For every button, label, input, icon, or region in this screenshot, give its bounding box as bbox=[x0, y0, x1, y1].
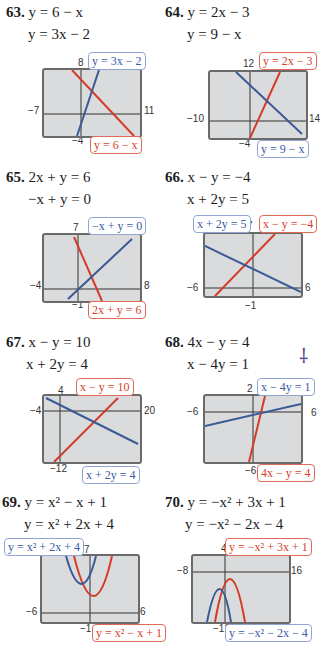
label-red-line: y = 2x − 3 bbox=[259, 52, 317, 70]
ymax-label: 12 bbox=[243, 58, 254, 69]
label-blue-line: y = 3x − 2 bbox=[88, 52, 146, 70]
label-blue-line: −x + y = 0 bbox=[88, 217, 146, 235]
xmin-label: −4 bbox=[30, 405, 41, 416]
equation-1: 4x − y = 4 bbox=[188, 334, 250, 350]
equation-1: y = −x² + 3x + 1 bbox=[188, 494, 286, 510]
xmin-label: −10 bbox=[187, 113, 204, 124]
problem-number: 67. bbox=[6, 334, 25, 350]
problem-68: 68. 4x − y = 4 x − 4y = 1 ⸸ 2 −6 6 −6 x … bbox=[163, 330, 326, 495]
label-blue-line: y = 9 − x bbox=[257, 140, 309, 158]
problem-number: 64. bbox=[165, 4, 184, 20]
xmax-label: 14 bbox=[309, 113, 320, 124]
graph-plot bbox=[44, 396, 140, 462]
graph-screen bbox=[42, 68, 142, 138]
problem-number: 69. bbox=[2, 494, 21, 510]
graph-plot bbox=[210, 72, 306, 138]
problem-65: 65. 2x + y = 6 −x + y = 0 7 −4 8 −1 −x +… bbox=[0, 165, 163, 330]
graph-plot bbox=[44, 70, 140, 136]
graph-plot bbox=[44, 235, 140, 301]
equation-1: 2x + y = 6 bbox=[29, 169, 91, 185]
graph-screen bbox=[191, 554, 291, 624]
equation-2: y = x² + 2x + 4 bbox=[24, 516, 114, 533]
ymin-label: −12 bbox=[50, 463, 67, 474]
xmin-label: −4 bbox=[30, 280, 41, 291]
label-blue-line: x + 2y = 5 bbox=[193, 215, 251, 233]
equation-2: x − 4y = 1 bbox=[187, 356, 249, 373]
hand-mark-icon: ⸸ bbox=[299, 342, 308, 369]
xmax-label: 6 bbox=[305, 282, 311, 293]
xmin-label: −8 bbox=[177, 565, 188, 576]
graph-screen bbox=[42, 394, 142, 464]
graph-plot bbox=[193, 556, 289, 622]
problem-63: 63. y = 6 − x y = 3x − 2 8 −7 11 −4 y = … bbox=[0, 0, 163, 165]
xmin-label: −7 bbox=[28, 105, 39, 116]
label-red-parabola: y = −x² + 3x + 1 bbox=[225, 538, 312, 556]
label-red-line: x − y = 10 bbox=[76, 378, 134, 396]
label-blue-line: x + 2y = 4 bbox=[82, 466, 140, 484]
label-blue-line: x − 4y = 1 bbox=[257, 378, 315, 396]
xmin-label: −6 bbox=[187, 282, 198, 293]
equation-2: y = 9 − x bbox=[187, 26, 241, 43]
problem-number: 68. bbox=[165, 334, 184, 350]
graph-plot bbox=[205, 396, 301, 462]
label-red-line: 2x + y = 6 bbox=[88, 301, 146, 319]
problem-number: 63. bbox=[6, 4, 25, 20]
equation-1: y = 6 − x bbox=[29, 4, 83, 20]
problem-66: 66. x − y = −4 x + 2y = 5 7 −6 6 −1 x + … bbox=[163, 165, 326, 330]
xmax-label: 6 bbox=[140, 606, 146, 617]
ymin-label: −6 bbox=[245, 465, 256, 476]
xmax-label: 6 bbox=[311, 407, 317, 418]
equation-1: x − y = −4 bbox=[188, 169, 251, 185]
label-blue-parabola: y = x² + 2x + 4 bbox=[4, 538, 84, 556]
graph-screen bbox=[40, 554, 140, 624]
label-red-line: 4x − y = 4 bbox=[257, 464, 315, 482]
xmax-label: 11 bbox=[144, 105, 154, 116]
problem-number: 65. bbox=[6, 169, 25, 185]
equation-2: x + 2y = 4 bbox=[26, 356, 88, 373]
graph-plot bbox=[205, 234, 301, 296]
ymax-label: 8 bbox=[78, 57, 84, 68]
graph-screen bbox=[203, 394, 303, 464]
graph-screen bbox=[42, 233, 142, 303]
label-blue-parabola: y = −x² − 2x − 4 bbox=[225, 624, 312, 642]
problem-69: 69. y = x² − x + 1 y = x² + 2x + 4 7 −6 … bbox=[0, 490, 163, 655]
problem-number: 70. bbox=[165, 494, 184, 510]
equation-2: y = −x² − 2x − 4 bbox=[185, 516, 283, 533]
xmax-label: 16 bbox=[291, 565, 302, 576]
ymax-label: 2 bbox=[247, 383, 253, 394]
label-red-line: y = 6 − x bbox=[90, 136, 142, 154]
xmin-label: −6 bbox=[26, 606, 37, 617]
problem-67: 67. x − y = 10 x + 2y = 4 4 −4 20 −12 x … bbox=[0, 330, 163, 495]
graph-plot bbox=[42, 556, 138, 622]
label-red-parabola: y = x² − x + 1 bbox=[92, 624, 166, 642]
problem-number: 66. bbox=[165, 169, 184, 185]
ymin-label: −1 bbox=[245, 300, 256, 311]
xmax-label: 20 bbox=[144, 405, 155, 416]
ymin-label: −1 bbox=[80, 623, 91, 634]
equation-1: y = 2x − 3 bbox=[188, 4, 250, 20]
equation-1: x − y = 10 bbox=[29, 334, 91, 350]
xmax-label: 8 bbox=[144, 280, 150, 291]
equation-2: x + 2y = 5 bbox=[187, 191, 249, 208]
graph-screen bbox=[208, 70, 308, 140]
equation-1: y = x² − x + 1 bbox=[25, 494, 107, 510]
equation-2: −x + y = 0 bbox=[28, 191, 91, 208]
graph-screen bbox=[203, 232, 303, 298]
xmin-label: −6 bbox=[187, 406, 198, 417]
problem-64: 64. y = 2x − 3 y = 9 − x 12 −10 14 −4 y … bbox=[163, 0, 326, 165]
ymax-label: 7 bbox=[73, 222, 79, 233]
label-red-line: x − y = −4 bbox=[259, 215, 317, 233]
equation-2: y = 3x − 2 bbox=[28, 26, 90, 43]
problem-70: 70. y = −x² + 3x + 1 y = −x² − 2x − 4 4 … bbox=[163, 490, 326, 655]
